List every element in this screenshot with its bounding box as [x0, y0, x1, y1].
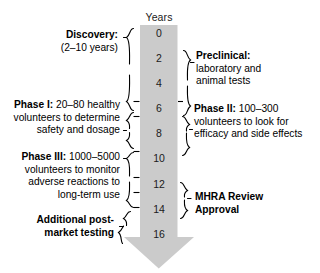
phase-ii-line1-rest: 100–300	[236, 103, 279, 114]
label-preclinical: Preclinical: laboratory and animal tests	[196, 50, 318, 88]
label-mhra-review: MHRA Review Approval	[195, 191, 319, 216]
phase-i-line3: safety and dosage	[0, 124, 120, 137]
discovery-detail: (2–10 years)	[4, 42, 118, 55]
preclinical-line3: animal tests	[196, 75, 318, 88]
preclinical-line2: laboratory and	[196, 63, 318, 76]
year-tick-12: 12	[140, 178, 178, 190]
phase-iii-line4: long-term use	[0, 189, 120, 202]
drug-development-timeline-diagram: Years 0 2 4 6 8 10 12 14 16 Discovery: (…	[0, 0, 320, 273]
preclinical-heading: Preclinical:	[196, 50, 250, 61]
year-tick-10: 10	[140, 152, 178, 164]
brace-discovery	[124, 29, 134, 111]
year-tick-0: 0	[140, 27, 178, 39]
mhra-line2: Approval	[195, 204, 319, 217]
phase-ii-heading: Phase II:	[194, 103, 236, 114]
year-tick-16: 16	[140, 228, 178, 240]
year-tick-8: 8	[140, 127, 178, 139]
brace-phase-iii	[124, 153, 134, 208]
phase-ii-line3: efficacy and side effects	[194, 128, 320, 141]
brace-phase-i	[124, 113, 134, 149]
postmarket-line2: market testing	[0, 227, 114, 240]
phase-iii-line2: volunteers to monitor	[0, 164, 120, 177]
phase-i-heading: Phase I:	[14, 99, 53, 110]
year-tick-6: 6	[140, 102, 178, 114]
phase-ii-line2: volunteers to look for	[194, 116, 320, 129]
year-tick-4: 4	[140, 77, 178, 89]
discovery-heading: Discovery:	[66, 29, 118, 40]
label-phase-i: Phase I: 20–80 healthy volunteers to det…	[0, 99, 120, 137]
mhra-line1: MHRA Review	[195, 191, 319, 204]
brace-preclinical	[184, 51, 195, 116]
axis-title-years: Years	[140, 11, 178, 23]
postmarket-line1: Additional post-	[0, 214, 114, 227]
label-phase-iii: Phase III: 1000–5000 volunteers to monit…	[0, 151, 120, 201]
brace-mhra-review	[181, 183, 192, 219]
label-phase-ii: Phase II: 100–300 volunteers to look for…	[194, 103, 320, 141]
phase-i-line2: volunteers to determine	[0, 112, 120, 125]
phase-i-line1-rest: 20–80 healthy	[53, 99, 120, 110]
year-tick-14: 14	[140, 203, 178, 215]
phase-iii-line1-rest: 1000–5000	[66, 151, 120, 162]
label-postmarket: Additional post- market testing	[0, 214, 114, 239]
brace-phase-ii	[183, 117, 193, 156]
phase-iii-line3: adverse reactions to	[0, 176, 120, 189]
year-tick-2: 2	[140, 52, 178, 64]
label-discovery: Discovery: (2–10 years)	[4, 29, 118, 54]
phase-iii-heading: Phase III:	[21, 151, 66, 162]
